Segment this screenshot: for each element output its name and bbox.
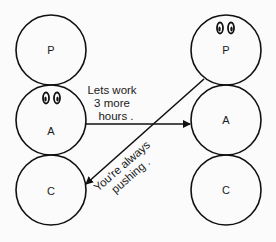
svg-text:Lets work: Lets work bbox=[87, 84, 136, 96]
ta-diagram: P A C P A C Lets work 3 more hours . bbox=[0, 0, 276, 242]
left-child-label: C bbox=[47, 185, 55, 197]
right-parent-label: P bbox=[222, 44, 229, 56]
eyes-icon bbox=[217, 23, 234, 34]
svg-text:3 more: 3 more bbox=[94, 97, 130, 109]
left-adult-circle bbox=[16, 85, 86, 155]
left-parent-label: P bbox=[47, 44, 54, 56]
message-1: Lets work 3 more hours . bbox=[87, 84, 136, 122]
right-child-label: C bbox=[222, 184, 230, 196]
left-adult-label: A bbox=[47, 125, 55, 137]
eyes-icon bbox=[43, 93, 60, 104]
left-person: P A C bbox=[16, 15, 86, 225]
right-person: P A C bbox=[191, 15, 261, 225]
svg-text:hours .: hours . bbox=[98, 110, 133, 122]
right-adult-label: A bbox=[222, 114, 230, 126]
